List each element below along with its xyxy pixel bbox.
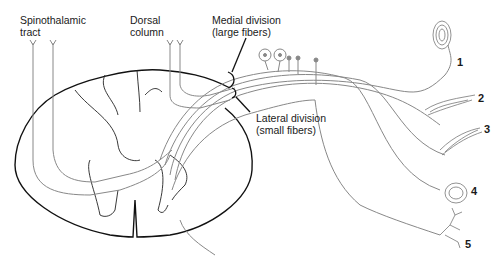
- label-spinothalamic-tract: Spinothalamic tract: [20, 14, 86, 38]
- label-medial-division: Medial division (large fibers): [212, 14, 281, 38]
- label-lateral-division: Lateral division (small fibers): [256, 112, 326, 136]
- spinal-cord-outline: [15, 70, 252, 237]
- receptor-5-number: 5: [465, 238, 471, 250]
- receptor-4-icon: [445, 183, 467, 203]
- receptor-3-icon: [440, 128, 482, 155]
- receptor-3-number: 3: [484, 123, 490, 135]
- receptor-5-icon: [440, 208, 462, 248]
- receptor-2-icon: [425, 95, 475, 115]
- division-brackets: [228, 38, 250, 112]
- receptor-2-number: 2: [478, 92, 484, 104]
- spinal-cord-diagram: [0, 0, 501, 280]
- receptor-1-icon: [433, 21, 451, 49]
- label-dorsal-column: Dorsal column: [130, 14, 164, 38]
- receptor-4-number: 4: [471, 185, 477, 197]
- dorsal-root-ganglion-cells: [259, 49, 318, 85]
- spinothalamic-fibers: [30, 40, 172, 195]
- receptor-1-number: 1: [457, 56, 463, 68]
